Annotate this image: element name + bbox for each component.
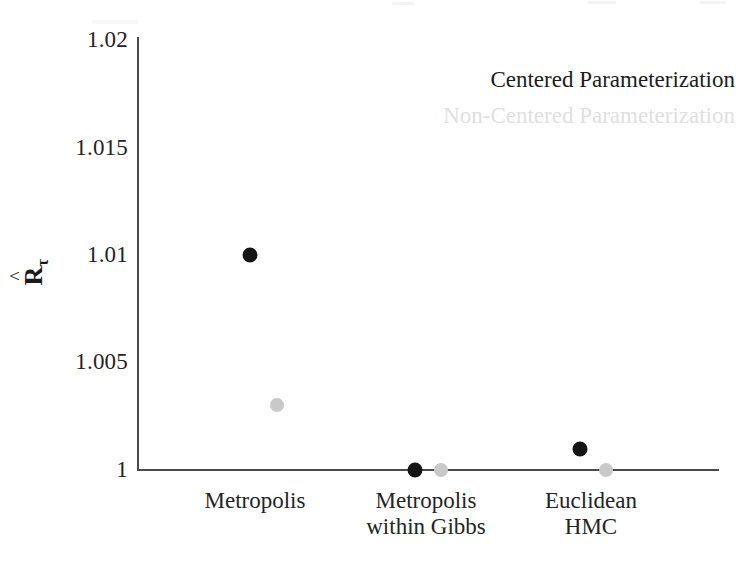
legend-entry-centered[interactable]: Centered Parameterization xyxy=(443,62,735,98)
x-axis-category-label-euclidean-hmc: Euclidean HMC xyxy=(496,488,686,540)
y-tick-label: 1 xyxy=(116,458,128,481)
scatter-chart-figure: ^Rτ 1.02 1.015 1.01 1.005 1 Metropolis M… xyxy=(0,0,747,565)
data-point-noncentered-metropolis-within-gibbs[interactable] xyxy=(434,463,448,477)
data-point-centered-metropolis-within-gibbs[interactable] xyxy=(408,463,423,478)
x-axis-line xyxy=(137,469,719,471)
y-tick-label: 1.015 xyxy=(75,136,128,159)
legend-entry-noncentered[interactable]: Non-Centered Parameterization xyxy=(443,98,735,134)
data-point-centered-metropolis[interactable] xyxy=(243,248,258,263)
scan-artifact xyxy=(700,1,726,4)
y-axis-line xyxy=(137,37,139,471)
legend: Centered Parameterization Non-Centered P… xyxy=(443,62,735,134)
data-point-centered-euclidean-hmc[interactable] xyxy=(573,442,588,457)
data-point-noncentered-metropolis[interactable] xyxy=(270,398,284,412)
y-tick-label: 1.02 xyxy=(87,28,128,51)
data-point-noncentered-euclidean-hmc[interactable] xyxy=(599,463,613,477)
scan-artifact xyxy=(588,1,616,4)
y-axis-tick-labels: 1.02 1.015 1.01 1.005 1 xyxy=(0,0,128,565)
y-tick-label: 1.005 xyxy=(75,350,128,373)
scan-artifact xyxy=(392,2,414,5)
y-tick-label: 1.01 xyxy=(87,243,128,266)
